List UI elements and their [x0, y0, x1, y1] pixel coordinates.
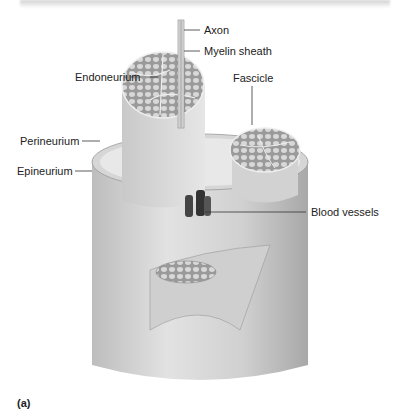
fascicle-right — [230, 128, 300, 203]
label-myelin-sheath: Myelin sheath — [204, 45, 272, 57]
label-endoneurium: Endoneurium — [75, 71, 140, 83]
label-axon: Axon — [204, 24, 229, 36]
label-perineurium: Perineurium — [20, 135, 79, 147]
label-epineurium: Epineurium — [17, 165, 73, 177]
label-fascicle: Fascicle — [233, 72, 273, 84]
panel-label: (a) — [17, 397, 30, 409]
label-blood-vessels: Blood vessels — [311, 206, 379, 218]
inner-fascicle — [156, 261, 216, 283]
